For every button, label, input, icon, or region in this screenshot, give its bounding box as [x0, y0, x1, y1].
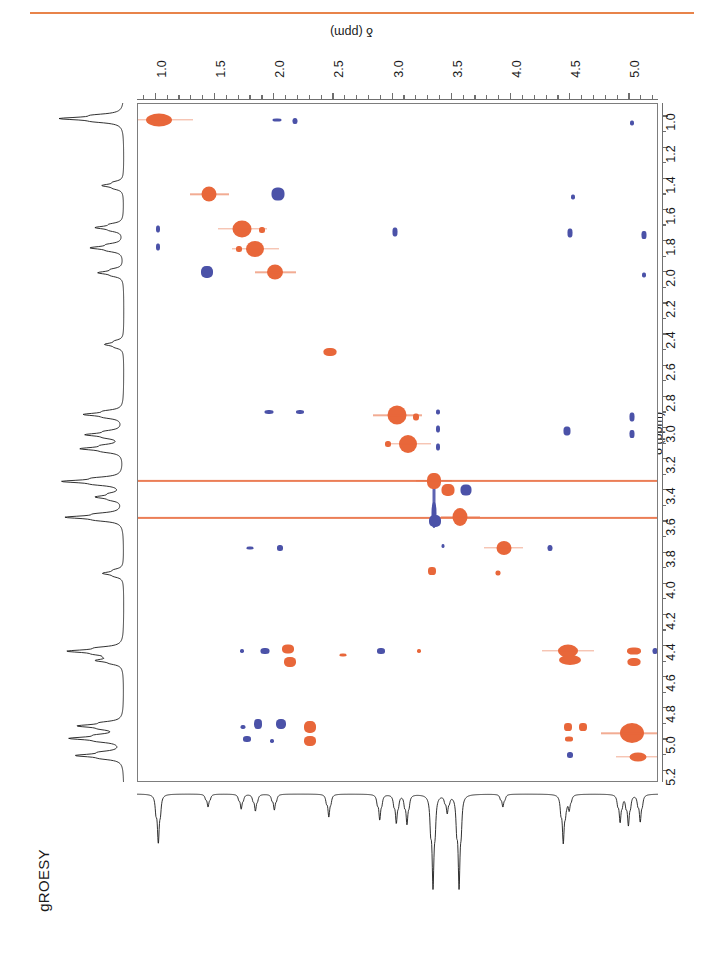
peak-tail [416, 480, 452, 481]
cross-peak [254, 719, 262, 729]
x-axis-tick-label: 2.5 [332, 60, 346, 77]
x-axis-tick [451, 93, 452, 99]
y-axis-tick-label: 4.6 [664, 674, 678, 691]
cross-peak [629, 413, 634, 422]
x-axis-tick [214, 93, 215, 99]
contour-plot-area[interactable] [137, 103, 658, 782]
x-axis-tick-label: 5.0 [628, 60, 642, 77]
x-axis-minor-tick [309, 95, 310, 99]
y-axis-minor-tick [662, 505, 666, 506]
cross-peak [563, 427, 570, 436]
y-axis-minor-tick [662, 256, 666, 257]
cross-peak [243, 736, 251, 742]
top-divider-rule [30, 12, 694, 14]
cross-peak [567, 752, 573, 758]
x-axis-minor-tick [463, 95, 464, 99]
x-axis-minor-tick [143, 95, 144, 99]
x-axis-tick-label: 1.5 [214, 60, 228, 77]
x-axis-line [137, 99, 658, 100]
y-axis-tick-label: 5.0 [664, 737, 678, 754]
cross-peak [559, 655, 581, 665]
cross-peak [564, 723, 572, 731]
cross-peak [271, 188, 284, 201]
diagonal-peak [323, 348, 336, 356]
x-axis-minor-tick [202, 95, 203, 99]
y-axis-tick-label: 5.2 [664, 768, 678, 785]
x-axis-minor-tick [415, 95, 416, 99]
cross-peak [436, 410, 440, 415]
x-axis-tick [392, 93, 393, 99]
cross-peak [265, 410, 274, 414]
y-axis-tick-label: 1.0 [664, 114, 678, 131]
cross-peak [277, 545, 283, 551]
peak-tail [137, 119, 193, 120]
y-axis-tick-label: 4.4 [664, 643, 678, 660]
x-axis-minor-tick [474, 95, 475, 99]
x-axis-minor-tick [640, 95, 641, 99]
cross-peak [429, 515, 441, 527]
cross-peak [642, 273, 646, 278]
x-axis-title: δ (ppm) [330, 25, 373, 39]
y-axis-tick-label: 3.4 [664, 488, 678, 505]
cross-peak [627, 647, 641, 654]
y-axis-tick-label: 3.8 [664, 550, 678, 567]
cross-peak [579, 723, 587, 731]
cross-peak [653, 648, 658, 654]
x-axis-tick-label: 3.5 [450, 60, 464, 77]
x-axis-tick [510, 93, 511, 99]
x-axis-minor-tick [617, 95, 618, 99]
y-axis-tick-label: 4.0 [664, 581, 678, 598]
cross-peak [377, 648, 385, 654]
y-axis-tick-label: 3.6 [664, 519, 678, 536]
x-axis-minor-tick [297, 95, 298, 99]
y-axis-tick-label: 2.4 [664, 332, 678, 349]
peak-tail [255, 271, 297, 272]
cross-peak [156, 244, 160, 251]
y-axis-tick-label: 3.0 [664, 425, 678, 442]
x-axis-minor-tick [285, 95, 286, 99]
y-axis-ruler: 1.01.21.41.61.82.02.22.42.62.83.03.23.43… [662, 103, 663, 782]
f1-projection-trace [22, 103, 134, 782]
x-axis-minor-tick [546, 95, 547, 99]
peak-tail [484, 547, 523, 548]
y-axis-tick-label: 4.8 [664, 706, 678, 723]
cross-peak [548, 545, 553, 551]
x-axis-minor-tick [581, 95, 582, 99]
x-axis-tick-label: 1.0 [154, 60, 168, 77]
x-axis-minor-tick [427, 95, 428, 99]
cross-peak [156, 225, 160, 232]
cross-peak [276, 719, 286, 729]
cross-peak [272, 118, 281, 121]
y-axis-minor-tick [662, 754, 666, 755]
x-axis-tick-label: 2.0 [273, 60, 287, 77]
cross-peak [571, 195, 575, 200]
x-axis-minor-tick [605, 95, 606, 99]
x-axis-minor-tick [226, 95, 227, 99]
y-axis-tick-label: 3.2 [664, 456, 678, 473]
cross-peak [436, 443, 440, 450]
cross-peak [392, 227, 397, 236]
cross-peak [641, 231, 646, 239]
y-axis-minor-tick [662, 474, 666, 475]
x-axis-minor-tick [368, 95, 369, 99]
cross-peak [630, 120, 634, 125]
cross-peak [428, 567, 436, 575]
cross-peak [293, 118, 298, 124]
y-axis-tick-label: 4.2 [664, 612, 678, 629]
peak-tail [616, 756, 658, 757]
cross-peak [260, 648, 269, 654]
solvent-ridge-horizontal [138, 480, 658, 482]
cross-peak [568, 229, 573, 238]
solvent-ridge-horizontal [138, 517, 658, 519]
x-axis-minor-tick [522, 95, 523, 99]
f1-projection-svg [22, 103, 134, 782]
y-axis-tick-label: 2.0 [664, 269, 678, 286]
y-axis-minor-tick [662, 723, 666, 724]
x-axis-minor-tick [403, 95, 404, 99]
x-axis-minor-tick [557, 95, 558, 99]
x-axis-minor-tick [652, 95, 653, 99]
cross-peak [339, 654, 346, 657]
x-axis-minor-tick [380, 95, 381, 99]
cross-peak [442, 484, 455, 496]
x-axis-tick [628, 93, 629, 99]
